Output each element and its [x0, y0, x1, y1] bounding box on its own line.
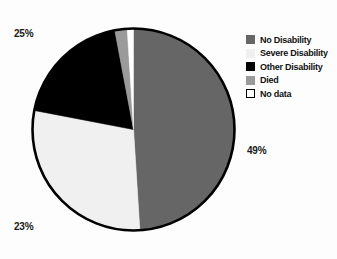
legend-swatch-severe-disability	[246, 49, 255, 58]
chart-legend: No Disability Severe Disability Other Di…	[246, 33, 337, 101]
legend-label-no-data: No data	[260, 89, 291, 99]
legend-swatch-died	[246, 76, 255, 85]
legend-item-other-disability: Other Disability	[246, 60, 337, 74]
legend-item-no-data: No data	[246, 87, 337, 101]
legend-label-died: Died	[260, 75, 279, 85]
pie-slice-severe-disability	[32, 110, 139, 230]
legend-swatch-no-data	[246, 89, 255, 98]
legend-label-severe-disability: Severe Disability	[260, 48, 328, 58]
percent-label-severe-disability: 23%	[14, 221, 33, 232]
legend-swatch-other-disability	[246, 62, 255, 71]
legend-label-no-disability: No Disability	[260, 35, 311, 45]
legend-label-other-disability: Other Disability	[260, 62, 323, 72]
legend-item-severe-disability: Severe Disability	[246, 47, 337, 61]
pie-slice-no-disability	[134, 29, 235, 231]
pie-chart-figure: 25% 23% 49% No Disability Severe Disabil…	[0, 0, 337, 259]
percent-label-no-disability: 49%	[247, 145, 266, 156]
legend-item-no-disability: No Disability	[246, 33, 337, 47]
percent-label-other-disability: 25%	[14, 28, 33, 39]
legend-item-died: Died	[246, 74, 337, 88]
legend-swatch-no-disability	[246, 35, 255, 44]
